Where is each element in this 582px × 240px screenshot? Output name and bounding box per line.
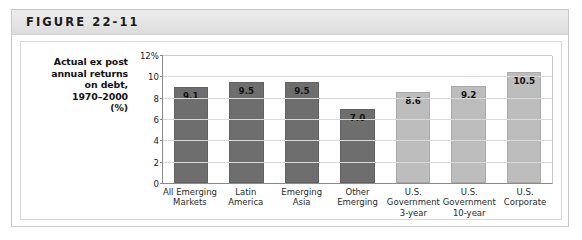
x-tick-label: EmergingAsia <box>274 187 330 218</box>
x-axis-labels: All EmergingMarketsLatinAmericaEmergingA… <box>162 187 553 218</box>
x-tick-label-line: Corporate <box>497 197 553 207</box>
x-tick-label: U.S.Corporate <box>497 187 553 218</box>
x-tick-label-line: Asia <box>274 197 330 207</box>
figure-card: FIGURE 22-11 Actual ex post annual retur… <box>11 9 569 227</box>
y-axis-tick <box>160 183 163 184</box>
x-tick-label: U.S.Government10-year <box>441 187 497 218</box>
y-axis-tick <box>160 76 163 77</box>
y-tick-label: 6 <box>154 115 159 125</box>
y-axis-tick <box>160 162 163 163</box>
x-tick-label-line: U.S. <box>385 187 441 197</box>
y-axis-tick <box>160 140 163 141</box>
x-tick-label-line: 3-year <box>385 208 441 218</box>
x-tick-label-line: Markets <box>162 197 218 207</box>
bar[interactable]: 10.5 <box>507 72 541 183</box>
x-tick-label-line: U.S. <box>497 187 553 197</box>
figure-header-band: FIGURE 22-11 <box>12 10 568 35</box>
x-tick-label-line: Latin <box>218 187 274 197</box>
y-tick-label: 8 <box>154 94 159 104</box>
x-tick-label-line: Emerging <box>274 187 330 197</box>
chart-caption: Actual ex post annual returns on debt, 1… <box>33 56 128 114</box>
x-tick-label-line: Government <box>385 197 441 207</box>
y-tick-label: 2 <box>154 158 159 168</box>
gridline <box>163 55 552 56</box>
gridline <box>163 119 552 120</box>
x-tick-label: LatinAmerica <box>218 187 274 218</box>
y-tick-label: 0 <box>154 179 159 189</box>
x-tick-label-line: 10-year <box>441 208 497 218</box>
bar[interactable]: 7.0 <box>340 109 374 183</box>
x-tick-label-line: Government <box>441 197 497 207</box>
bar-value-label: 9.1 <box>175 91 207 101</box>
x-tick-label-line: U.S. <box>441 187 497 197</box>
y-tick-label: 12% <box>140 51 159 61</box>
x-tick-label: OtherEmerging <box>330 187 386 218</box>
x-tick-label: U.S.Government3-year <box>385 187 441 218</box>
figure-inner-panel: Actual ex post annual returns on debt, 1… <box>20 41 562 220</box>
caption-line-5: (%) <box>33 102 128 114</box>
caption-line-1: Actual ex post <box>33 56 128 68</box>
caption-line-2: annual returns <box>33 68 128 80</box>
y-axis-tick <box>160 98 163 99</box>
caption-line-3: on debt, <box>33 79 128 91</box>
caption-line-4: 1970–2000 <box>33 91 128 103</box>
bar-value-label: 9.5 <box>286 86 318 96</box>
y-axis-labels: 024681012% <box>133 56 159 184</box>
bar-value-label: 9.5 <box>230 86 262 96</box>
y-axis-tick <box>160 55 163 56</box>
bar-chart: 024681012% 9.19.59.57.08.69.210.5 All Em… <box>133 56 553 216</box>
gridline <box>163 162 552 163</box>
bar-value-label: 7.0 <box>341 113 373 123</box>
plot-area: 9.19.59.57.08.69.210.5 <box>162 56 553 184</box>
x-tick-label-line: Other <box>330 187 386 197</box>
figure-number-label: FIGURE 22-11 <box>26 15 140 29</box>
y-tick-label: 10 <box>148 72 159 82</box>
bar[interactable]: 8.6 <box>396 92 430 183</box>
x-tick-label-line: All Emerging <box>162 187 218 197</box>
bar[interactable]: 9.2 <box>451 86 485 183</box>
x-tick-label-line: Emerging <box>330 197 386 207</box>
gridline <box>163 98 552 99</box>
gridline <box>163 140 552 141</box>
y-axis-tick <box>160 119 163 120</box>
bar-value-label: 10.5 <box>508 76 540 86</box>
y-tick-label: 4 <box>154 136 159 146</box>
x-tick-label: All EmergingMarkets <box>162 187 218 218</box>
bar[interactable]: 9.1 <box>174 87 208 183</box>
gridline <box>163 76 552 77</box>
x-tick-label-line: America <box>218 197 274 207</box>
